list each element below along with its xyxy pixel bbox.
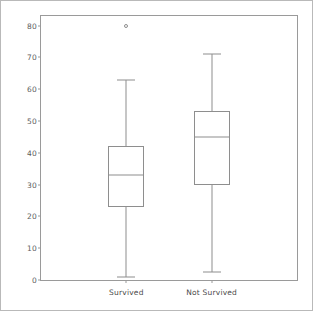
lower-whisker (211, 185, 212, 272)
x-axis-label-survived: Survived (109, 288, 144, 297)
y-axis-tick-label: 0 (32, 276, 37, 285)
x-axis-tick-mark (126, 280, 127, 283)
y-axis-tick-label: 50 (27, 116, 37, 125)
boxplot-figure: 01020304050607080 SurvivedNot Survived (0, 0, 313, 311)
y-axis-tick-label: 30 (27, 180, 37, 189)
upper-whisker-cap (203, 54, 221, 55)
lower-whisker-cap (203, 272, 221, 273)
median-line (194, 136, 230, 137)
plot-area: 01020304050607080 SurvivedNot Survived (40, 15, 298, 281)
iqr-box (194, 111, 230, 184)
x-axis-tick-mark (211, 280, 212, 283)
x-axis-label-not-survived: Not Survived (186, 288, 237, 297)
y-axis-tick-label: 60 (27, 85, 37, 94)
y-axis-tick-label: 20 (27, 212, 37, 221)
upper-whisker (211, 54, 212, 111)
y-axis-tick-label: 80 (27, 21, 37, 30)
box-plot-not-survived (41, 16, 297, 280)
y-axis-tick-label: 40 (27, 148, 37, 157)
y-axis-tick-label: 10 (27, 244, 37, 253)
y-axis-tick-label: 70 (27, 53, 37, 62)
